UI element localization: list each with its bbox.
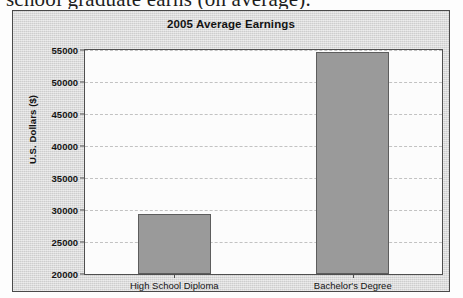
cutoff-text-clip: school graduate earns (on average). [0, 0, 463, 9]
y-axis-tick-mark [80, 242, 85, 243]
y-axis-tick-mark [80, 274, 85, 275]
y-axis-tick-mark [80, 210, 85, 211]
x-axis-tick-label: Bachelor's Degree [314, 280, 392, 291]
y-axis-tick-label: 35000 [52, 173, 78, 184]
x-axis-tick-mark [353, 274, 354, 278]
bar-1 [138, 214, 211, 274]
y-axis-tick-mark [80, 50, 85, 51]
chart-title: 2005 Average Earnings [13, 18, 449, 30]
y-axis-tick-mark [80, 82, 85, 83]
y-axis-tick-label: 45000 [52, 109, 78, 120]
y-axis-tick-label: 50000 [52, 77, 78, 88]
chart-figure: 2005 Average Earnings U.S. Dollars ($) 2… [12, 10, 450, 292]
gridline [85, 50, 442, 51]
y-axis-tick-label: 40000 [52, 141, 78, 152]
y-axis-tick-label: 30000 [52, 205, 78, 216]
y-axis-tick-label: 20000 [52, 269, 78, 280]
bar-2 [316, 52, 389, 274]
plot-area: 2000025000300003500040000450005000055000… [84, 49, 443, 275]
body-text-line: school graduate earns (on average). [6, 0, 426, 9]
y-axis-tick-mark [80, 114, 85, 115]
x-axis-tick-mark [174, 274, 175, 278]
y-axis-tick-label: 55000 [52, 45, 78, 56]
y-axis-label: U.S. Dollars ($) [27, 70, 38, 190]
y-axis-tick-mark [80, 178, 85, 179]
y-axis-tick-mark [80, 146, 85, 147]
y-axis-tick-label: 25000 [52, 237, 78, 248]
x-axis-tick-label: High School Diploma [130, 280, 219, 291]
scanned-page: school graduate earns (on average). 2005… [0, 0, 463, 298]
